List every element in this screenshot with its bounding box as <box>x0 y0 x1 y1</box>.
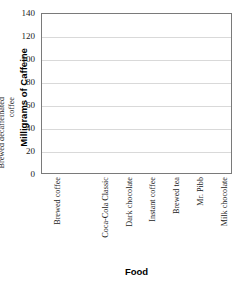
gridline <box>42 106 231 107</box>
y-tick-label: 100 <box>22 55 36 64</box>
x-tick-label-text: Brewed coffee <box>53 177 63 225</box>
gridline <box>42 60 231 61</box>
x-tick-label-text: Brewed tea <box>172 177 182 214</box>
x-tick-label-text: Dark chocolate <box>125 177 135 227</box>
gridline <box>42 37 231 38</box>
y-tick-label: 20 <box>26 147 35 156</box>
x-tick-label-text: Milk chocolate <box>220 177 230 226</box>
x-tick-label-text: Instant coffee <box>148 177 158 222</box>
gridlines <box>42 14 231 173</box>
x-axis-tick-labels: Brewed coffeeBrewed decaffeinated coffee… <box>41 174 232 262</box>
y-tick-label: 120 <box>22 32 36 41</box>
x-tick-label: Milk chocolate <box>220 177 245 199</box>
gridline <box>42 129 231 130</box>
plot-area <box>41 13 232 174</box>
x-tick-label-text: Coca-Cola Classic <box>101 177 111 238</box>
gridline <box>42 152 231 153</box>
y-tick-label: 60 <box>26 101 35 110</box>
x-tick-label: Brewed coffee <box>53 177 101 199</box>
caffeine-bar-chart: Milligrams of Caffeine 02040608010012014… <box>0 0 245 294</box>
x-axis-title: Food <box>41 266 232 277</box>
y-tick-label: 40 <box>26 124 35 133</box>
y-tick-label: 140 <box>22 9 36 18</box>
gridline <box>42 83 231 84</box>
y-tick-label: 0 <box>31 170 36 179</box>
y-tick-label: 80 <box>26 78 35 87</box>
x-tick-label-text: Mr. Pibb <box>196 177 206 206</box>
x-tick-label-text: Brewed decaffeinated coffee <box>0 97 16 177</box>
